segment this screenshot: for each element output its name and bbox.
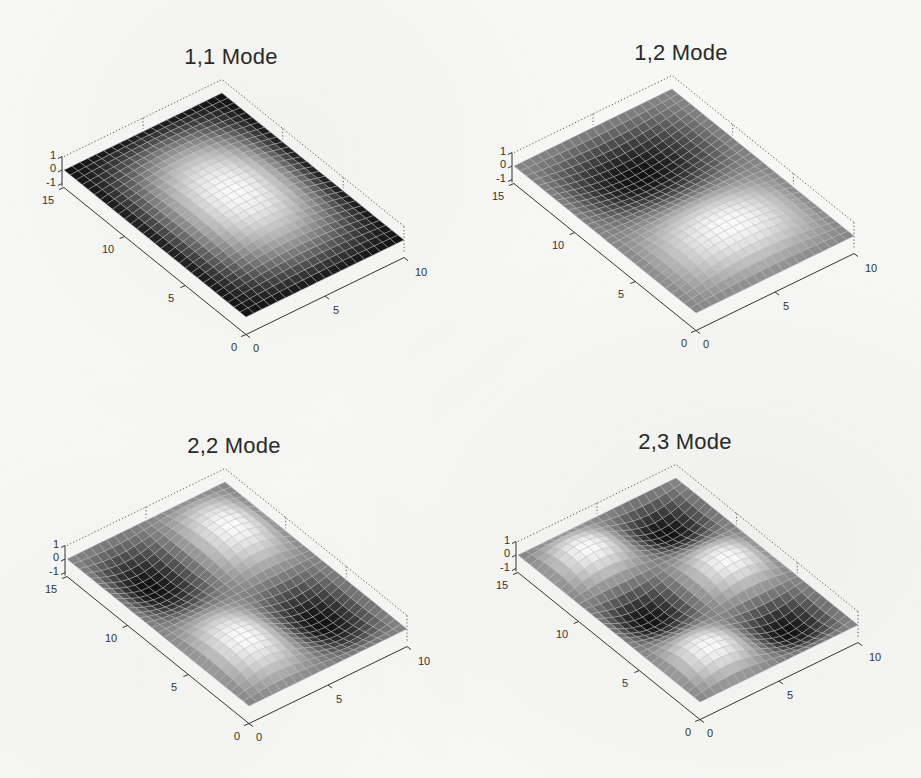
y-tick-15: 15 (496, 579, 508, 591)
y-tick-5: 5 (171, 681, 177, 693)
subplot-mode-2-2: 2,2 Mode 1 0 -1 15 10 5 0 0 5 10 (3, 389, 463, 778)
x-tick-10: 10 (415, 266, 427, 278)
z-tick-0: 0 (53, 551, 59, 563)
x-tick-0: 0 (707, 727, 713, 739)
z-tick-0: 0 (504, 547, 510, 559)
z-tick-0: 0 (500, 158, 506, 170)
x-tick-0: 0 (256, 731, 262, 743)
x-tick-5: 5 (333, 304, 339, 316)
x-tick-5: 5 (787, 689, 793, 701)
z-tick-neg1: -1 (46, 176, 56, 188)
x-tick-10: 10 (869, 651, 881, 663)
y-tick-0: 0 (685, 726, 691, 738)
y-tick-15: 15 (492, 190, 504, 202)
subplot-mode-1-2: 1,2 Mode 1 0 -1 15 10 5 0 0 5 10 (450, 0, 910, 385)
surface-plot (450, 0, 910, 385)
surface-mesh (64, 93, 404, 317)
surface-plot (3, 389, 463, 778)
z-tick-1: 1 (53, 538, 59, 550)
y-tick-10: 10 (105, 632, 117, 644)
y-tick-0: 0 (231, 341, 237, 353)
y-tick-5: 5 (618, 288, 624, 300)
z-tick-neg1: -1 (500, 561, 510, 573)
x-tick-5: 5 (783, 300, 789, 312)
x-tick-5: 5 (336, 693, 342, 705)
y-tick-15: 15 (42, 194, 54, 206)
subplot-mode-2-3: 2,3 Mode 1 0 -1 15 10 5 0 0 5 10 (454, 385, 914, 774)
y-tick-10: 10 (556, 628, 568, 640)
z-tick-neg1: -1 (496, 172, 506, 184)
y-tick-10: 10 (552, 239, 564, 251)
x-tick-10: 10 (418, 655, 430, 667)
y-tick-0: 0 (234, 730, 240, 742)
surface-mesh (518, 478, 858, 702)
x-tick-0: 0 (253, 342, 259, 354)
subplot-mode-1-1: 1,1 Mode 1 0 -1 15 10 5 0 0 5 10 (0, 0, 460, 389)
z-tick-1: 1 (500, 145, 506, 157)
y-tick-5: 5 (168, 292, 174, 304)
y-tick-10: 10 (102, 243, 114, 255)
surface-plot (454, 385, 914, 774)
z-tick-0: 0 (50, 162, 56, 174)
x-tick-0: 0 (703, 338, 709, 350)
y-tick-0: 0 (681, 337, 687, 349)
x-tick-10: 10 (865, 262, 877, 274)
surface-plot (0, 0, 460, 389)
y-tick-5: 5 (622, 677, 628, 689)
z-tick-1: 1 (504, 534, 510, 546)
surface-mesh (67, 482, 407, 706)
z-tick-1: 1 (50, 149, 56, 161)
surface-mesh (514, 89, 854, 313)
z-tick-neg1: -1 (49, 565, 59, 577)
y-tick-15: 15 (45, 583, 57, 595)
